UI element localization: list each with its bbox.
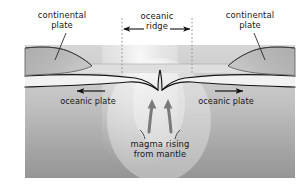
diagram-figure: continental plate oceanic ridge continen…: [0, 0, 308, 186]
label-oceanic-plate-right: oceanic plate: [181, 96, 271, 106]
label-continental-plate-right: continental plate: [210, 10, 290, 31]
label-oceanic-ridge: oceanic ridge: [127, 11, 187, 32]
label-magma-rising: magma rising from mantle: [112, 139, 208, 160]
label-continental-plate-left: continental plate: [22, 10, 102, 31]
label-oceanic-plate-left: oceanic plate: [43, 96, 133, 106]
